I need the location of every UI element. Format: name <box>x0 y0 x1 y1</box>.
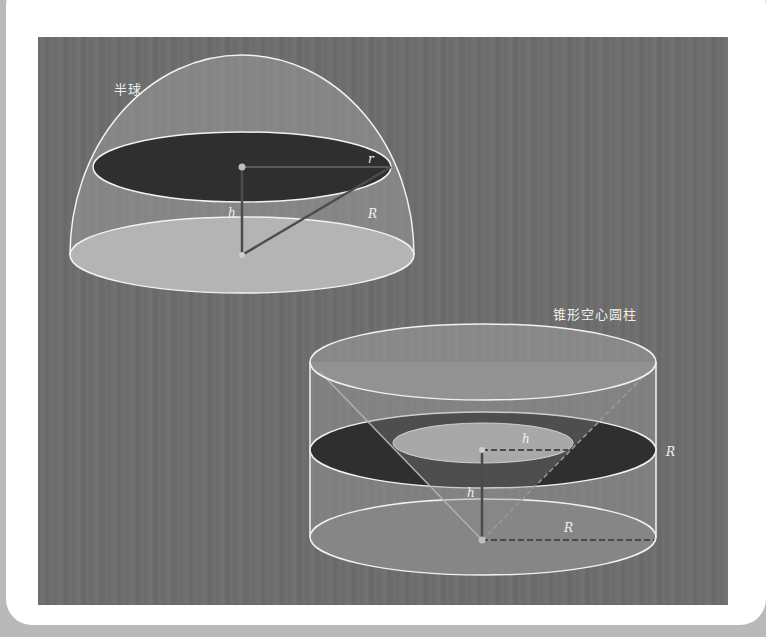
hemisphere-R-label: R <box>368 207 377 221</box>
diagram-panel: 半球 r h R 锥形空心圆柱 h h R R <box>38 37 728 605</box>
hemisphere-r-label: r <box>368 152 374 166</box>
cylinder-title: 锥形空心圆柱 <box>553 304 637 323</box>
cylinder-base-R-label: R <box>564 521 573 535</box>
cylinder-inner-h-label: h <box>522 432 530 446</box>
hemisphere-title: 半球 <box>114 79 142 98</box>
cylinder-h-label: h <box>467 486 475 500</box>
cylinder-figure <box>310 324 656 575</box>
cylinder-side-R-label: R <box>666 445 675 459</box>
hemisphere-h-label: h <box>228 206 236 220</box>
